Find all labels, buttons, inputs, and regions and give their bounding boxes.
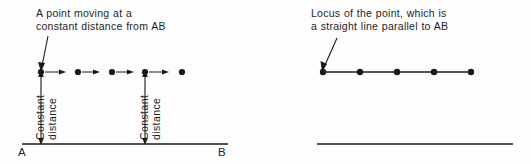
left-moving-point-1: [38, 69, 66, 75]
left-leader-line-arrow: [38, 36, 48, 72]
left-label-constant-1: Constant: [34, 95, 46, 140]
left-diagram-panel: A point moving at a constant distance fr…: [0, 0, 265, 164]
left-baseline-label-b: B: [218, 146, 226, 158]
left-moving-point-4: [142, 69, 169, 75]
left-label-distance-2: distance: [150, 98, 162, 140]
left-label-distance-1: distance: [46, 98, 58, 140]
left-moving-point-5: [179, 69, 185, 75]
left-baseline-label-a: A: [18, 146, 26, 158]
figure-canvas: A point moving at a constant distance fr…: [0, 0, 531, 164]
right-diagram-panel: Locus of the point, which is a straight …: [265, 0, 531, 164]
right-locus-point-4: [431, 69, 437, 75]
left-moving-point-3: [109, 69, 134, 75]
right-locus-point-5: [468, 69, 474, 75]
right-locus-point-3: [394, 69, 400, 75]
left-label-constant-2: Constant: [138, 95, 150, 140]
left-moving-point-2: [75, 69, 100, 75]
right-leader-line-arrow: [321, 38, 338, 72]
right-locus-point-1: [320, 69, 326, 75]
right-locus-point-2: [357, 69, 363, 75]
right-diagram-graphics: [265, 0, 531, 164]
